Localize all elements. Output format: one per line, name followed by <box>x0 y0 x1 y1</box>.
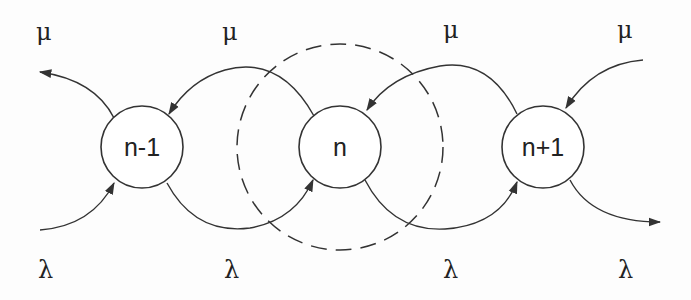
mu-label: μ <box>36 18 52 46</box>
diagram-svg: n-1 n n+1 μ μ μ μ λ λ λ λ <box>0 0 691 300</box>
node-n-1: n-1 <box>101 106 183 188</box>
lambda-label: λ <box>224 256 239 284</box>
edge-in-n-1-lambda <box>40 183 114 230</box>
node-label: n <box>333 133 347 161</box>
edge-n-to-n+1-lambda <box>365 180 517 229</box>
node-n+1: n+1 <box>502 106 584 188</box>
edge-n+1-out-lambda <box>570 180 660 222</box>
node-n: n <box>299 106 381 188</box>
mu-label: μ <box>222 18 238 46</box>
birth-death-diagram: n-1 n n+1 μ μ μ μ λ λ λ λ <box>0 0 691 300</box>
edge-n+1-to-n-mu <box>367 65 517 114</box>
edge-n-1-out-mu <box>40 72 114 118</box>
mu-label: μ <box>617 16 633 44</box>
edge-in-n+1-mu <box>566 60 643 108</box>
lambda-label: λ <box>443 256 458 284</box>
lambda-label: λ <box>38 256 53 284</box>
edge-n-to-n-1-mu <box>169 67 314 116</box>
node-label: n+1 <box>522 133 564 161</box>
edge-n-1-to-n-lambda <box>167 180 313 229</box>
mu-label: μ <box>443 16 459 44</box>
node-label: n-1 <box>124 133 160 161</box>
lambda-label: λ <box>618 256 633 284</box>
